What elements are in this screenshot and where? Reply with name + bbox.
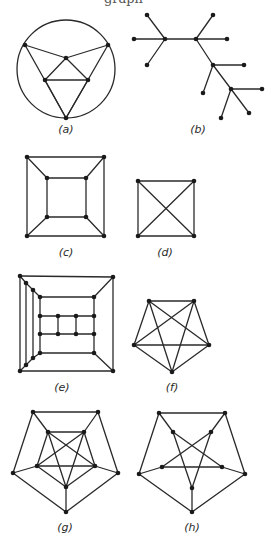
graph-edge bbox=[94, 277, 113, 297]
graph-edge bbox=[139, 467, 162, 474]
graph-edge bbox=[66, 473, 118, 512]
graph-vertex bbox=[116, 471, 121, 476]
graph-edge bbox=[147, 15, 165, 39]
graph-edge bbox=[194, 301, 209, 345]
graph-edge bbox=[139, 413, 159, 474]
graph-edge bbox=[45, 58, 66, 80]
graph-edge bbox=[33, 412, 48, 432]
graph-edge bbox=[222, 467, 245, 474]
graph-vertex bbox=[211, 13, 216, 18]
graph-vertex bbox=[160, 465, 165, 470]
graph-edge bbox=[98, 412, 118, 473]
graph-vertex bbox=[92, 351, 97, 356]
graph-vertex bbox=[24, 363, 29, 368]
graph-vertex bbox=[137, 472, 142, 477]
graph-d: (d) bbox=[136, 179, 197, 259]
graph-vertex bbox=[31, 288, 36, 293]
graph-edge bbox=[66, 58, 88, 80]
graph-edge bbox=[149, 301, 172, 372]
graph-edge bbox=[162, 432, 211, 467]
graph-a: (a) bbox=[17, 20, 115, 136]
graph-edge bbox=[231, 89, 249, 113]
graph-b: (b) bbox=[132, 13, 265, 136]
graph-f: (f) bbox=[132, 299, 212, 394]
graph-c: (c) bbox=[25, 155, 107, 259]
graph-vertex bbox=[35, 464, 40, 469]
graph-edge bbox=[139, 474, 192, 512]
graph-edge bbox=[20, 276, 113, 277]
graph-vertex bbox=[190, 486, 195, 491]
graph-label: (c) bbox=[59, 246, 74, 259]
graph-vertex bbox=[207, 343, 212, 348]
graph-edge bbox=[94, 353, 113, 371]
graph-vertex bbox=[106, 43, 111, 48]
graph-vertex bbox=[219, 116, 224, 121]
graph-label: (a) bbox=[58, 123, 73, 136]
graph-vertex bbox=[192, 234, 197, 239]
graph-vertex bbox=[45, 176, 50, 181]
graph-vertex bbox=[84, 176, 89, 181]
graph-vertex bbox=[243, 472, 248, 477]
graph-vertex bbox=[145, 63, 150, 68]
graph-vertex bbox=[194, 37, 199, 42]
graph-edge bbox=[203, 65, 213, 93]
graph-edge bbox=[84, 432, 95, 466]
graph-vertex bbox=[43, 78, 48, 83]
graph-vertex bbox=[163, 37, 168, 42]
graph-vertex bbox=[46, 430, 51, 435]
graph-edge bbox=[13, 466, 37, 473]
graph-vertex bbox=[74, 332, 79, 337]
graph-h: (h) bbox=[137, 411, 248, 534]
graph-vertex bbox=[23, 43, 28, 48]
graph-vertex bbox=[220, 465, 225, 470]
graph-vertex bbox=[132, 37, 137, 42]
graph-vertex bbox=[136, 179, 141, 184]
graph-vertex bbox=[170, 370, 175, 375]
graph-vertex bbox=[74, 314, 79, 319]
graph-edge bbox=[37, 466, 66, 487]
graph-edge bbox=[66, 80, 88, 118]
graph-vertex bbox=[132, 343, 137, 348]
graph-edge bbox=[13, 412, 33, 473]
graph-vertex bbox=[190, 510, 195, 515]
graph-vertex bbox=[147, 299, 152, 304]
graph-vertex bbox=[102, 155, 107, 160]
graph-vertex bbox=[64, 485, 69, 490]
graph-label: (f) bbox=[166, 381, 178, 394]
graph-vertex bbox=[247, 111, 252, 116]
graph-edge bbox=[27, 217, 47, 236]
graph-vertex bbox=[145, 13, 150, 18]
graph-edge bbox=[173, 432, 222, 467]
graph-label: (b) bbox=[190, 123, 206, 136]
circle-edge bbox=[17, 20, 115, 118]
graph-vertex bbox=[157, 411, 162, 416]
graph-edge bbox=[13, 473, 66, 512]
graph-vertex bbox=[136, 234, 141, 239]
graph-edge bbox=[84, 412, 98, 432]
graph-edge bbox=[48, 432, 66, 487]
graph-vertex bbox=[102, 234, 107, 239]
graph-vertex bbox=[84, 215, 89, 220]
graph-edge bbox=[172, 301, 194, 372]
graph-vertex bbox=[242, 63, 247, 68]
graph-vertex bbox=[229, 87, 234, 92]
graph-vertex bbox=[92, 295, 97, 300]
graph-vertex bbox=[25, 155, 30, 160]
graph-edge bbox=[48, 432, 95, 466]
graph-edge bbox=[211, 413, 225, 432]
graph-e: (e) bbox=[18, 274, 116, 394]
graph-edge bbox=[27, 157, 47, 178]
graph-edge bbox=[86, 157, 104, 178]
graph-edge bbox=[196, 39, 213, 65]
graph-edge bbox=[213, 65, 231, 89]
graph-vertex bbox=[260, 87, 265, 92]
graph-vertex bbox=[82, 430, 87, 435]
graph-vertex bbox=[225, 37, 230, 42]
graph-vertex bbox=[92, 314, 97, 319]
graph-vertex bbox=[111, 369, 116, 374]
graph-figure: (a) (b) (c) (d) (e) (f) (g) (h) bbox=[0, 0, 278, 540]
graph-label: (e) bbox=[54, 381, 69, 394]
graph-vertex bbox=[18, 274, 23, 279]
graph-label: (d) bbox=[157, 246, 173, 259]
graph-edge bbox=[37, 432, 48, 466]
